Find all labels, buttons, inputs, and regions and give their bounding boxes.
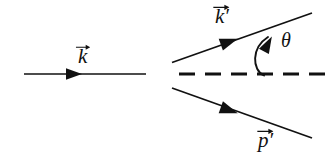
outgoing-particle-momentum-letter: p (258, 128, 269, 152)
outgoing-photon-momentum-symbol: k′ (215, 6, 229, 27)
scattering-diagram-figure: k k′ p′ θ (0, 0, 336, 165)
scattered-photon-line (172, 13, 312, 63)
incoming-arrowhead (66, 68, 82, 80)
incoming-momentum-label: k (78, 46, 87, 67)
incoming-momentum-symbol: k (78, 46, 87, 67)
outgoing-particle-momentum-prime: ′ (269, 128, 274, 152)
outgoing-photon-momentum-label: k′ (215, 6, 229, 27)
outgoing-photon-momentum-prime: ′ (224, 4, 229, 28)
outgoing-particle-momentum-label: p′ (258, 130, 273, 151)
diagram-canvas (0, 0, 336, 165)
outgoing-particle-momentum-symbol: p′ (258, 130, 273, 151)
vector-stack: k (78, 46, 87, 67)
scattering-angle-label: θ (281, 30, 291, 50)
vector-stack: p′ (258, 130, 273, 151)
scattered-photon-arrowhead (219, 33, 240, 51)
outgoing-photon-momentum-letter: k (215, 4, 224, 28)
recoil-particle-line (172, 88, 312, 138)
vector-stack: k′ (215, 6, 229, 27)
